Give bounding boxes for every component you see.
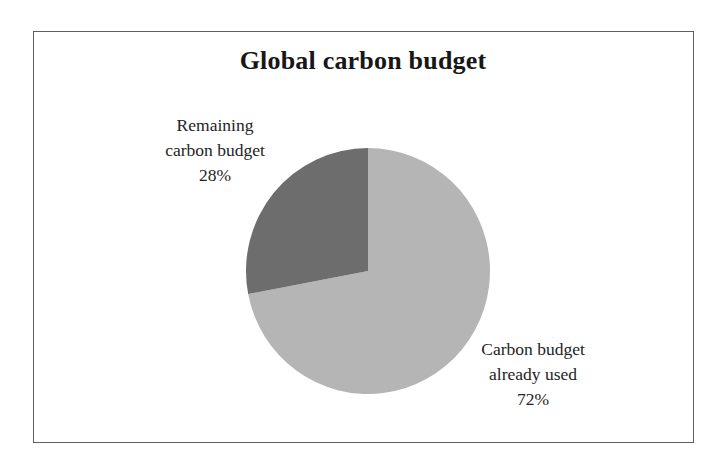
chart-screenshot: Global carbon budget Remaining carbon bu… <box>0 0 726 471</box>
callout-remaining-line-2: carbon budget <box>134 138 296 163</box>
callout-used-line-1: Carbon budget <box>452 337 614 362</box>
callout-label-remaining-carbon-budget: Remaining carbon budget 28% <box>134 113 296 188</box>
callout-used-line-2: already used <box>452 362 614 387</box>
callout-remaining-line-1: Remaining <box>134 113 296 138</box>
callout-used-value: 72% <box>452 387 614 412</box>
chart-title: Global carbon budget <box>0 46 726 76</box>
callout-remaining-value: 28% <box>134 163 296 188</box>
callout-label-carbon-budget-already-used: Carbon budget already used 72% <box>452 337 614 412</box>
